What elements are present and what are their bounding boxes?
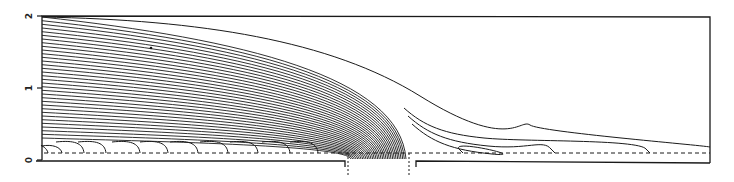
y-tick-label-0: 0 — [24, 155, 34, 165]
near-wall-hooks — [41, 141, 318, 153]
y-tick-label-2: 2 — [24, 11, 34, 21]
marker-dot — [150, 47, 153, 50]
streamlines — [42, 17, 710, 159]
y-tick-label-1: 1 — [24, 83, 34, 93]
y-axis-ticks — [37, 16, 42, 160]
electrode-base — [36, 153, 710, 176]
streamline-figure — [0, 0, 734, 182]
